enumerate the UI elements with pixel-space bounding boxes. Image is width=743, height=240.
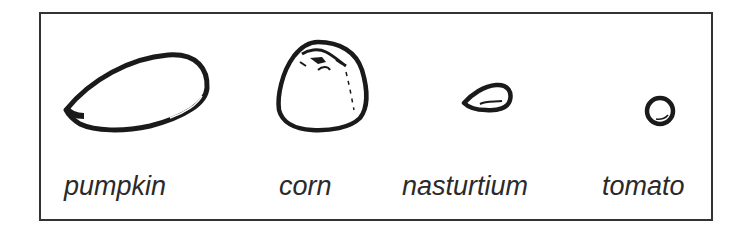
- seed-label-corn: corn: [279, 170, 332, 202]
- corn-seed-icon: [279, 42, 367, 130]
- tomato-seed-icon: [647, 98, 673, 124]
- pumpkin-seed-icon: [66, 55, 207, 130]
- nasturtium-seed-icon: [464, 85, 510, 110]
- seed-label-tomato: tomato: [602, 170, 685, 202]
- seed-label-nasturtium: nasturtium: [402, 170, 528, 202]
- seed-label-pumpkin: pumpkin: [64, 170, 166, 202]
